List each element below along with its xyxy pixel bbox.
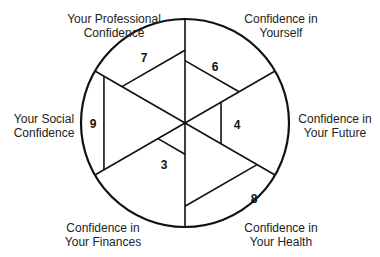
label-professional-confidence: Your Professional Confidence	[44, 12, 184, 40]
label-confidence-in-yourself: Confidence in Yourself	[226, 12, 336, 40]
label-line: Yourself	[226, 26, 336, 40]
confidence-wheel-diagram: Your Professional Confidence Confidence …	[0, 0, 380, 257]
score-finances: 3	[161, 158, 168, 172]
label-line: Your Finances	[48, 235, 158, 249]
score-health: 8	[251, 192, 258, 206]
label-line: Your Social	[6, 112, 82, 126]
label-social-confidence: Your Social Confidence	[6, 112, 82, 140]
label-confidence-in-your-future: Confidence in Your Future	[290, 112, 380, 140]
label-line: Confidence	[44, 26, 184, 40]
label-line: Confidence	[6, 126, 82, 140]
score-line-health	[185, 165, 257, 207]
score-future: 4	[234, 118, 241, 132]
label-line: Confidence in	[226, 221, 336, 235]
label-confidence-in-your-finances: Confidence in Your Finances	[48, 221, 158, 249]
score-line-professional	[122, 50, 185, 86]
score-line-finances	[158, 139, 185, 155]
score-social: 9	[90, 117, 97, 131]
label-line: Confidence in	[48, 221, 158, 235]
label-line: Confidence in	[290, 112, 380, 126]
score-yourself: 6	[212, 60, 219, 74]
score-professional: 7	[141, 51, 148, 65]
label-line: Your Professional	[44, 12, 184, 26]
label-confidence-in-your-health: Confidence in Your Health	[226, 221, 336, 249]
label-line: Your Health	[226, 235, 336, 249]
label-line: Your Future	[290, 126, 380, 140]
label-line: Confidence in	[226, 12, 336, 26]
